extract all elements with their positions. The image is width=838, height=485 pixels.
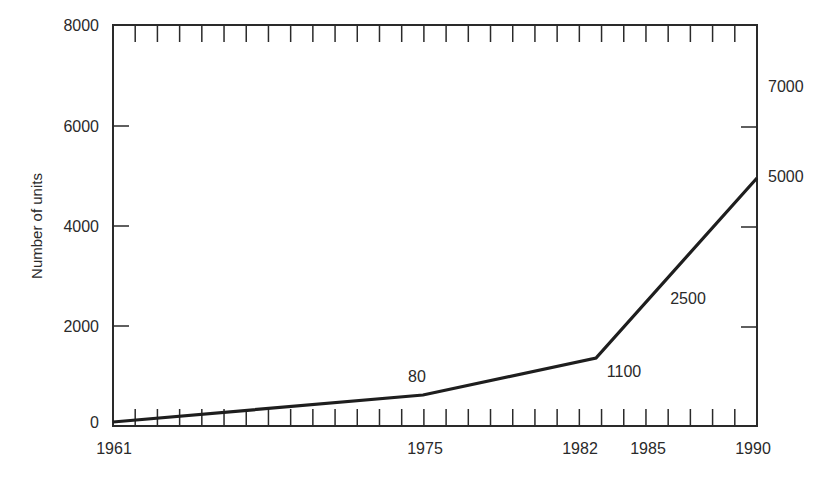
plot-frame <box>113 25 757 426</box>
y-tick-label-6000: 6000 <box>63 118 99 135</box>
y-tick-label-2000: 2000 <box>63 318 99 335</box>
annotation-80: 80 <box>408 368 426 385</box>
annotation-1100: 1100 <box>607 363 642 380</box>
data-line <box>113 178 757 422</box>
top-axis-ticks <box>135 25 735 42</box>
x-tick-label-1961: 1961 <box>96 440 132 457</box>
right-axis-ticks <box>741 127 757 327</box>
line-chart: 8000 6000 4000 2000 0 Number of units 70… <box>0 0 838 485</box>
y-tick-label-8000: 8000 <box>63 17 99 34</box>
x-tick-label-1985: 1985 <box>630 440 666 457</box>
right-label-7000: 7000 <box>768 78 804 95</box>
y-tick-label-0: 0 <box>90 414 99 431</box>
x-tick-label-1990: 1990 <box>735 440 771 457</box>
x-tick-label-1975: 1975 <box>407 440 443 457</box>
annotation-2500: 2500 <box>670 290 706 307</box>
y-tick-label-4000: 4000 <box>63 218 99 235</box>
right-label-5000: 5000 <box>768 168 804 185</box>
x-tick-label-1982: 1982 <box>562 440 598 457</box>
left-axis-ticks <box>113 126 129 326</box>
y-axis-title: Number of units <box>28 173 45 279</box>
